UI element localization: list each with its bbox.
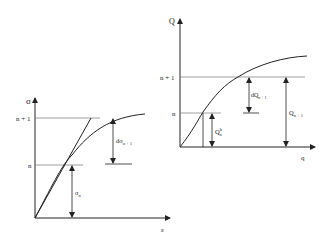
Q-n-b-label: Qbn bbox=[215, 127, 223, 137]
stress-strain-curve bbox=[35, 114, 145, 218]
stress-strain-diagram: σ ε n + 1 n dσn + 1 σn bbox=[16, 96, 170, 234]
Q-n-plus-1-label: Qn + 1 bbox=[289, 109, 303, 118]
level-n-label: n bbox=[28, 162, 32, 170]
diagram-canvas: σ ε n + 1 n dσn + 1 σn Q q n bbox=[0, 0, 330, 241]
d-sigma-label: dσn + 1 bbox=[116, 137, 132, 146]
load-displacement-diagram: Q q n + 1 n Qbn dQn + 1 Qn + 1 bbox=[160, 17, 315, 162]
sigma-axis-label: σ bbox=[26, 96, 31, 106]
epsilon-axis-label: ε bbox=[161, 226, 164, 234]
level-n-label: n bbox=[172, 110, 176, 118]
load-curve bbox=[180, 56, 307, 147]
sigma-n-label: σn bbox=[75, 189, 82, 198]
level-n-plus-1-label: n + 1 bbox=[160, 74, 175, 82]
level-n-plus-1-label: n + 1 bbox=[16, 115, 31, 123]
Q-axis-label: Q bbox=[169, 17, 175, 26]
d-Q-label: dQn + 1 bbox=[251, 92, 267, 100]
q-axis-label: q bbox=[301, 154, 305, 162]
